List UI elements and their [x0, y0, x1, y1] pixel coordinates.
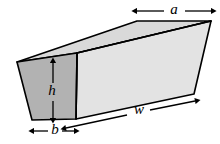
- prism-body: [17, 21, 211, 120]
- prism-diagram-canvas: a h b w: [0, 0, 220, 144]
- dimension-a-label: a: [170, 1, 178, 17]
- left-trapezoid-face: [17, 53, 77, 120]
- dimension-b: b: [34, 121, 74, 137]
- dimension-w-label: w: [134, 101, 144, 117]
- trapezoidal-prism-figure: a h b w: [0, 0, 220, 144]
- dimension-b-label: b: [51, 121, 59, 137]
- dimension-h-label: h: [48, 82, 56, 98]
- edge-left-front-vertical: [76, 53, 77, 119]
- dimension-a: a: [137, 1, 211, 17]
